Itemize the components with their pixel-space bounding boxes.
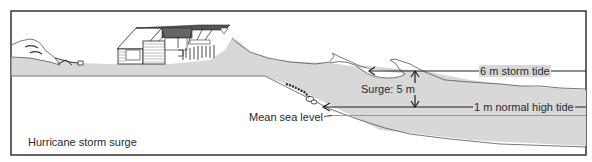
debris-box bbox=[78, 61, 83, 65]
storm-surge-diagram: 6 m storm tide 1 m normal high tide Surg… bbox=[0, 0, 592, 162]
surge-label: Surge: 5 m bbox=[360, 83, 416, 95]
diagram-title: Hurricane storm surge bbox=[28, 136, 137, 148]
storm-tide-label: 6 m storm tide bbox=[479, 65, 551, 77]
normal-high-tide-label: 1 m normal high tide bbox=[473, 101, 575, 113]
mean-sea-level-label: Mean sea level bbox=[248, 111, 324, 123]
